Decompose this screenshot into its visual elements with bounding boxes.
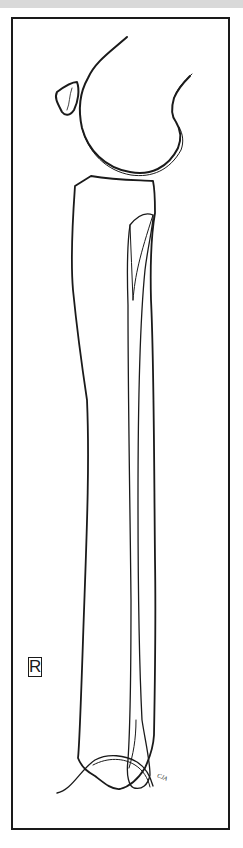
femur-outline <box>80 37 190 173</box>
leg-bones-drawing <box>0 0 243 848</box>
tibia-outline <box>72 176 156 789</box>
side-marker-right: R <box>28 657 42 677</box>
femur-condyle-inner <box>82 127 183 176</box>
talus-outline <box>57 756 153 793</box>
fibula-outline <box>127 214 153 789</box>
